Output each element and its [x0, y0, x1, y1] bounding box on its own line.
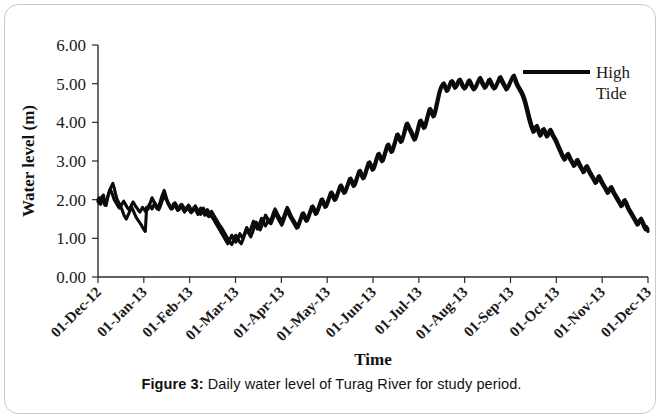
figure-container: 0.001.002.003.004.005.006.00 01-Dec-1201…: [0, 0, 663, 420]
y-axis-ticks: 0.001.002.003.004.005.006.00: [56, 36, 98, 287]
legend-label-line2: Tide: [596, 84, 627, 103]
x-tick-label: 01-Dec-13: [597, 284, 654, 341]
series-group: [98, 75, 648, 244]
y-tick-label: 2.00: [56, 191, 86, 210]
y-tick-label: 1.00: [56, 229, 86, 248]
y-tick-label: 3.00: [56, 152, 86, 171]
figure-caption: Figure 3: Daily water level of Turag Riv…: [0, 376, 663, 392]
figure-caption-label: Figure 3:: [142, 376, 204, 392]
x-tick-label: 01-Jun-13: [322, 284, 379, 341]
figure-caption-text: Daily water level of Turag River for stu…: [204, 376, 522, 392]
y-tick-label: 0.00: [56, 268, 86, 287]
legend: High Tide: [523, 63, 631, 103]
y-axis-title: Water level (m): [19, 105, 38, 217]
series-line-1: [98, 76, 648, 244]
legend-label-line1: High: [596, 63, 631, 82]
x-axis-ticks: [98, 277, 648, 283]
x-tick-label: 01-Dec-12: [47, 284, 104, 341]
y-tick-label: 6.00: [56, 36, 86, 55]
water-level-line-chart: 0.001.002.003.004.005.006.00 01-Dec-1201…: [0, 0, 663, 375]
x-axis-tick-labels: 01-Dec-1201-Jan-1301-Feb-1301-Mar-1301-A…: [47, 284, 654, 344]
x-axis-title: Time: [354, 350, 392, 369]
y-tick-label: 4.00: [56, 113, 86, 132]
y-tick-label: 5.00: [56, 75, 86, 94]
